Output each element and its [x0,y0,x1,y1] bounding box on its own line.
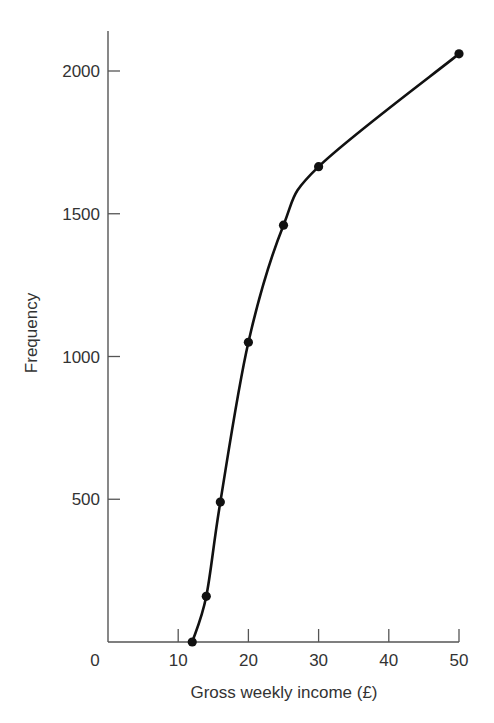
x-tick-label: 50 [450,651,469,670]
data-point [279,221,288,230]
x-tick-label: 40 [379,651,398,670]
axes [108,31,459,642]
data-point [188,637,197,646]
x-tick-label: 20 [239,651,258,670]
y-tick-label: 1000 [62,348,100,367]
x-tick-label: 30 [309,651,328,670]
origin-label: 0 [90,651,99,670]
y-tick-label: 2000 [62,62,100,81]
data-point-markers [188,49,464,646]
y-tick-label: 500 [72,490,100,509]
data-point [314,162,323,171]
y-tick-label: 1500 [62,205,100,224]
x-tick-label: 10 [169,651,188,670]
y-axis-label: Frequency [22,292,41,373]
tick-labels: 1020304050500100015002000 [62,62,468,670]
ogive-chart: 1020304050500100015002000 0 Gross weekly… [0,0,494,723]
data-point [244,338,253,347]
data-point [202,592,211,601]
data-point [216,498,225,507]
x-axis-label: Gross weekly income (£) [190,683,377,702]
cumulative-frequency-curve [192,54,459,642]
ticks [108,71,459,642]
data-point [454,49,463,58]
